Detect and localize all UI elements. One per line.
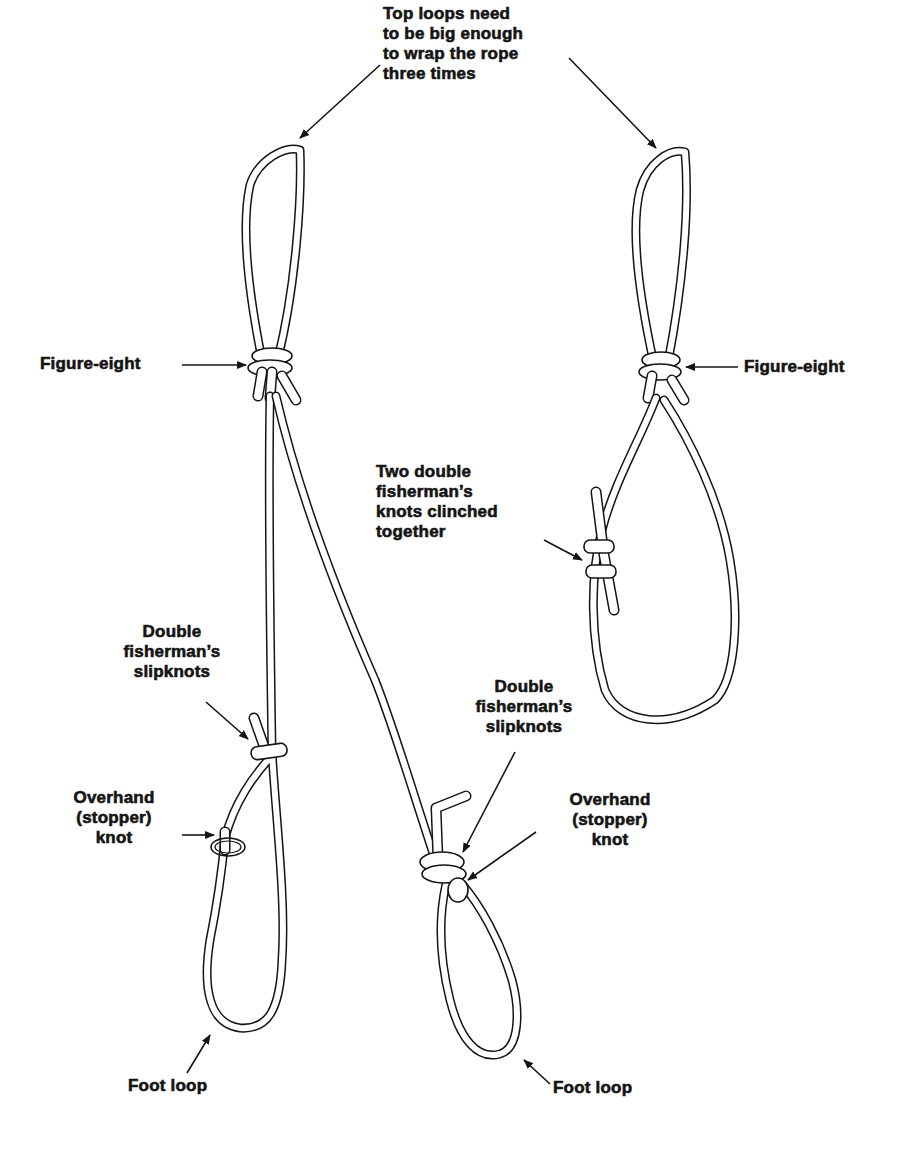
arrow-foot-loop-right [524,1060,550,1084]
arrow-two-double-fisherman [544,540,582,560]
arrow-slipknot-right [463,752,515,852]
label-slipknots-left: Double fisherman’s slipknots [102,622,242,682]
label-slipknots-right: Double fisherman’s slipknots [454,677,594,737]
arrow-top-loop-left [300,65,380,138]
label-figure-eight-left: Figure-eight [40,354,141,374]
label-two-double-fisherman: Two double fisherman’s knots clinched to… [376,462,498,542]
right-sling-loop [593,398,735,720]
label-overhand-left: Overhand (stopper) knot [54,788,174,848]
arrow-overhand-right [468,832,536,880]
left-foot-loop [207,752,283,1028]
right-foot-loop [441,884,517,1055]
left-top-loop [246,149,300,360]
arrow-slipknot-left [206,702,248,739]
right-top-loop [636,151,687,364]
left-overhand-knot [211,832,245,856]
rope-knot-diagram [0,0,914,1170]
label-foot-loop-left: Foot loop [128,1076,207,1096]
right-overhand-knot [448,878,468,902]
left-main-strand [269,396,272,752]
label-overhand-right: Overhand (stopper) knot [550,790,670,850]
label-top-loops: Top loops need to be big enough to wrap … [383,4,523,84]
label-foot-loop-right: Foot loop [553,1078,632,1098]
label-figure-eight-right: Figure-eight [744,357,845,377]
right-figure-eight-knot [639,352,684,400]
arrow-top-loop-right [569,58,656,148]
arrow-foot-loop-left [187,1035,210,1073]
